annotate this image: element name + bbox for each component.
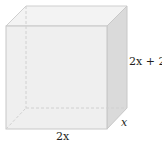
depth-label: x xyxy=(121,117,127,128)
prism-drawing xyxy=(0,0,162,145)
width-label: 2x xyxy=(56,131,69,142)
width-label-text: 2x xyxy=(56,130,69,143)
height-label: 2x + 2 xyxy=(129,56,162,67)
height-label-text: 2x + 2 xyxy=(129,55,162,68)
rectangular-prism-diagram: 2x + 2 x 2x xyxy=(0,0,162,145)
top-face xyxy=(6,6,127,26)
depth-label-text: x xyxy=(121,116,127,129)
side-face xyxy=(107,6,127,129)
